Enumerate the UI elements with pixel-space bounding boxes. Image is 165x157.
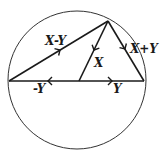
circle: [8, 11, 146, 149]
label-x: X: [93, 56, 104, 70]
label-minus-y: -Y: [33, 82, 47, 96]
vector-circle-diagram: X-Y X X+Y Y -Y: [0, 0, 165, 157]
label-x-minus-y: X-Y: [44, 34, 68, 48]
label-x-plus-y: X+Y: [129, 42, 159, 56]
label-y: Y: [113, 82, 123, 96]
